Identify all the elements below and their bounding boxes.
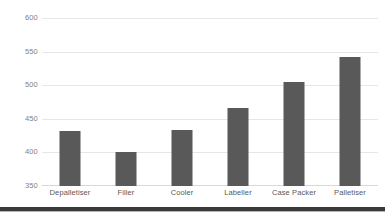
bar	[172, 130, 193, 186]
x-axis-category-label: Depalletiser	[42, 189, 98, 197]
x-axis: Depalletiser Filler Cooler Labeller Case…	[42, 187, 378, 203]
x-axis-category-label: Filler	[98, 189, 154, 197]
bar-slot	[266, 18, 322, 186]
y-axis-tick-label: 600	[4, 14, 38, 22]
y-axis-tick-label: 350	[4, 182, 38, 190]
bar-series	[42, 18, 378, 186]
bar	[116, 152, 137, 186]
bottom-divider-shadow	[0, 211, 385, 212]
bar-slot	[42, 18, 98, 186]
bar	[340, 57, 361, 186]
x-axis-category-label: Cooler	[154, 189, 210, 197]
y-axis-tick-label: 450	[4, 115, 38, 123]
y-axis-tick-label: 400	[4, 148, 38, 156]
x-axis-category-label: Palletiser	[322, 189, 378, 197]
bar-slot	[98, 18, 154, 186]
bar-chart: 600 550 500 450 400 350	[0, 0, 385, 219]
x-axis-category-label: Labeller	[210, 189, 266, 197]
y-axis-tick-label: 550	[4, 48, 38, 56]
bar-slot	[322, 18, 378, 186]
bar-slot	[154, 18, 210, 186]
y-axis: 600 550 500 450 400 350	[0, 18, 38, 186]
bar	[284, 82, 305, 186]
bar-slot	[210, 18, 266, 186]
x-axis-category-label: Case Packer	[266, 189, 322, 197]
y-axis-tick-label: 500	[4, 81, 38, 89]
bar	[228, 108, 249, 186]
bar	[60, 131, 81, 186]
